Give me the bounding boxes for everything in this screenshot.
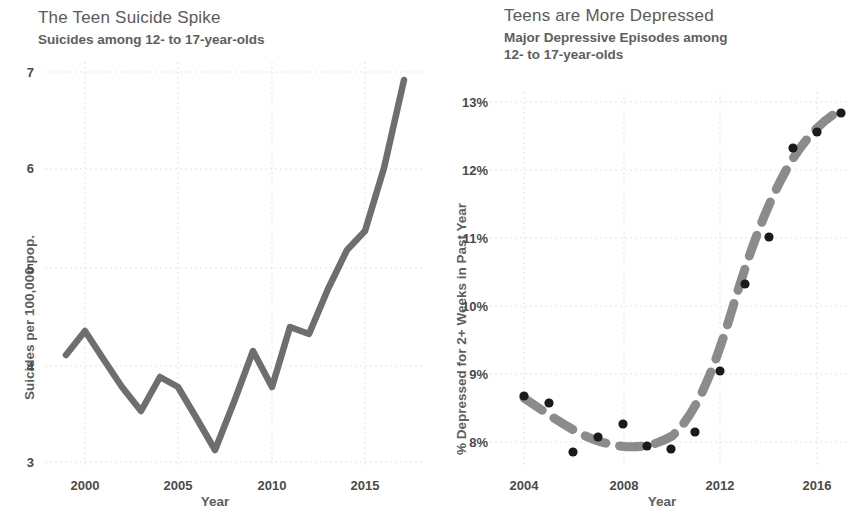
- point-2011: [690, 427, 699, 436]
- left-chart-svg: [0, 0, 432, 514]
- chart-page: The Teen Suicide Spike Suicides among 12…: [0, 0, 852, 514]
- point-2005: [544, 398, 553, 407]
- suicide-rate-line: [66, 80, 404, 450]
- point-2009: [642, 441, 651, 450]
- suicide-chart-panel: The Teen Suicide Spike Suicides among 12…: [0, 0, 432, 514]
- point-2008: [618, 419, 627, 428]
- point-2006: [568, 447, 577, 456]
- point-2017: [836, 108, 845, 117]
- point-2007: [593, 432, 602, 441]
- depression-chart-panel: Teens are More Depressed Major Depressiv…: [432, 0, 852, 514]
- point-2012: [715, 366, 724, 375]
- right-chart-svg: [432, 0, 852, 514]
- point-2013: [740, 279, 749, 288]
- point-2010: [666, 444, 675, 453]
- depression-trend-dashed-line: [524, 110, 841, 447]
- point-2014: [764, 232, 773, 241]
- point-2015: [788, 143, 797, 152]
- point-2004: [519, 391, 528, 400]
- point-2016: [812, 127, 821, 136]
